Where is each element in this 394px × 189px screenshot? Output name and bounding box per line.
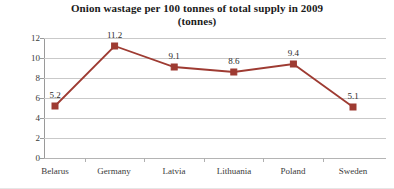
point-label-latvia: 9.1 bbox=[169, 52, 180, 61]
data-point-poland bbox=[290, 61, 296, 67]
point-label-lithuania: 8.6 bbox=[228, 57, 239, 66]
data-point-belarus bbox=[52, 103, 58, 109]
bottom-border bbox=[0, 188, 394, 189]
point-label-sweden: 5.1 bbox=[347, 92, 358, 101]
data-point-germany bbox=[112, 43, 118, 49]
chart-container: Onion wastage per 100 tonnes of total su… bbox=[0, 0, 394, 189]
data-point-sweden bbox=[350, 104, 356, 110]
point-label-belarus: 5.2 bbox=[49, 91, 60, 100]
data-point-lithuania bbox=[231, 69, 237, 75]
data-point-latvia bbox=[171, 64, 177, 70]
point-label-germany: 11.2 bbox=[107, 31, 122, 40]
point-label-poland: 9.4 bbox=[288, 49, 299, 58]
series-polyline bbox=[55, 46, 353, 107]
